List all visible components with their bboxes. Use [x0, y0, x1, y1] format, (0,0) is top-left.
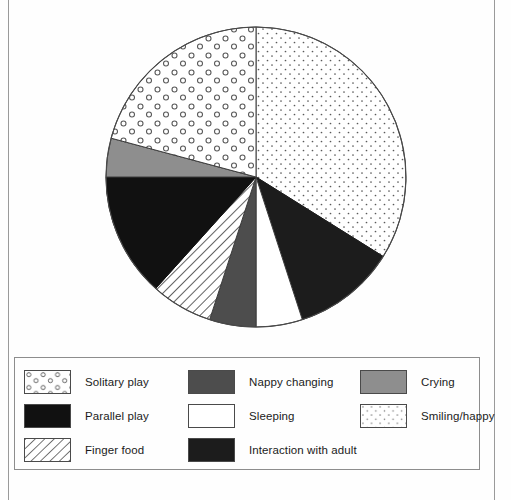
legend-item-sleeping[interactable]: Sleeping [188, 400, 357, 432]
legend-swatch-crying [360, 370, 407, 394]
legend-label-parallel-play: Parallel play [85, 410, 149, 422]
legend-column-1: Solitary play Parallel play Finger food [24, 366, 149, 468]
legend-swatch-sleeping [188, 404, 235, 428]
legend-swatch-interaction-with-adult [188, 438, 235, 462]
legend-label-smiling-happy: Smiling/happy [421, 410, 495, 422]
legend-item-smiling-happy[interactable]: Smiling/happy [360, 400, 495, 432]
pie-chart [0, 0, 511, 352]
chart-legend: Solitary play Parallel play Finger food [14, 357, 480, 470]
legend-label-interaction-with-adult: Interaction with adult [249, 444, 357, 456]
pie-slice-group [106, 27, 406, 327]
legend-item-parallel-play[interactable]: Parallel play [24, 400, 149, 432]
legend-swatch-finger-food [24, 438, 71, 462]
page-canvas: Solitary play Parallel play Finger food [0, 0, 511, 500]
legend-label-nappy-changing: Nappy changing [249, 376, 334, 388]
legend-item-interaction-with-adult[interactable]: Interaction with adult [188, 434, 357, 466]
legend-label-finger-food: Finger food [85, 444, 144, 456]
legend-label-crying: Crying [421, 376, 455, 388]
pie-chart-area [0, 0, 511, 352]
legend-column-2: Nappy changing Sleeping Interaction with… [188, 366, 357, 468]
legend-label-solitary-play: Solitary play [85, 376, 149, 388]
legend-swatch-solitary-play [24, 370, 71, 394]
legend-column-3: Crying Smiling/happy [360, 366, 495, 434]
legend-swatch-parallel-play [24, 404, 71, 428]
legend-item-nappy-changing[interactable]: Nappy changing [188, 366, 357, 398]
legend-item-finger-food[interactable]: Finger food [24, 434, 149, 466]
legend-item-solitary-play[interactable]: Solitary play [24, 366, 149, 398]
legend-swatch-smiling-happy [360, 404, 407, 428]
legend-item-crying[interactable]: Crying [360, 366, 495, 398]
legend-label-sleeping: Sleeping [249, 410, 295, 422]
legend-swatch-nappy-changing [188, 370, 235, 394]
